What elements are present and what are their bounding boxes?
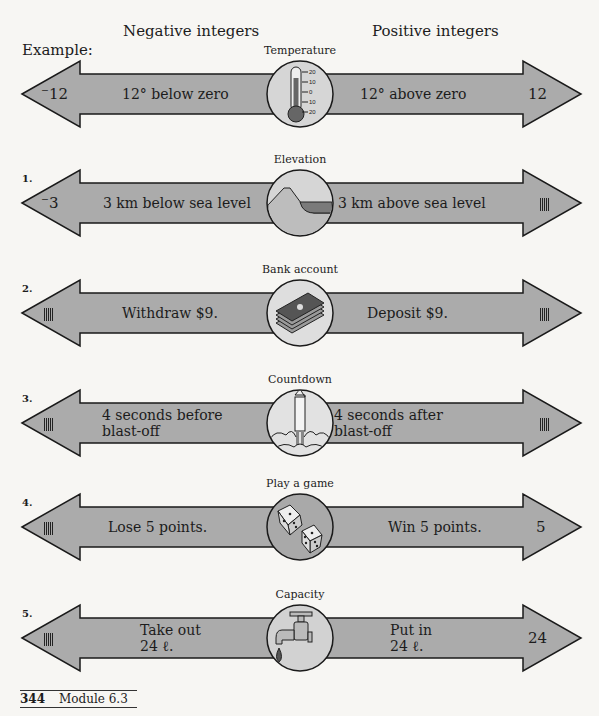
mountain-sea-icon <box>267 170 333 237</box>
right-value: 5 <box>536 518 546 536</box>
tally-icon <box>540 308 550 321</box>
text-line: Withdraw $9. <box>122 305 218 321</box>
row-caption: Play a game <box>230 477 370 490</box>
text-line: 24 ℓ. <box>390 638 432 654</box>
double-arrow <box>0 383 599 463</box>
left-value: ⁻12 <box>41 85 68 103</box>
text-line: 12° below zero <box>122 86 229 102</box>
faucet-icon <box>267 605 333 671</box>
negative-description: Take out24 ℓ. <box>140 622 201 654</box>
double-arrow <box>0 487 599 567</box>
left-value: ⁻3 <box>41 194 58 212</box>
tally-icon <box>44 418 54 431</box>
money-stack-icon <box>267 280 333 346</box>
text-line: Take out <box>140 622 201 638</box>
row-caption: Capacity <box>230 588 370 601</box>
text-line: 12° above zero <box>360 86 466 102</box>
positive-description: 12° above zero <box>360 86 466 102</box>
text-line: Lose 5 points. <box>108 519 207 535</box>
module-label: Module 6.3 <box>59 692 128 706</box>
text-line: 4 seconds after <box>334 407 443 423</box>
tally-icon <box>44 308 54 321</box>
text-line: Deposit $9. <box>367 305 448 321</box>
text-line: Win 5 points. <box>388 519 482 535</box>
answer-blank-left[interactable] <box>44 520 54 539</box>
exercise-number: 3. <box>22 393 32 404</box>
answer-blank-left[interactable] <box>44 416 54 435</box>
answer-blank-right[interactable] <box>540 196 550 215</box>
exercise-number: 4. <box>22 497 32 508</box>
text-line: blast-off <box>334 423 443 439</box>
svg-text:20: 20 <box>309 109 316 115</box>
thermometer-icon: 201001020 <box>267 61 333 127</box>
dice-icon <box>267 494 333 560</box>
positive-description: 3 km above sea level <box>338 195 486 211</box>
tally-icon <box>44 522 54 535</box>
rocket-icon <box>267 389 333 456</box>
positive-description: Put in24 ℓ. <box>390 622 432 654</box>
exercise-number: 2. <box>22 283 32 294</box>
row-caption: Elevation <box>230 153 370 166</box>
double-arrow <box>0 598 599 678</box>
double-arrow: 201001020 <box>0 54 599 134</box>
svg-text:20: 20 <box>309 69 316 75</box>
svg-text:10: 10 <box>309 99 316 105</box>
right-value: 12 <box>528 85 547 103</box>
positive-description: Win 5 points. <box>388 519 482 535</box>
tally-icon <box>44 633 54 646</box>
text-line: 3 km below sea level <box>103 195 251 211</box>
negative-description: Lose 5 points. <box>108 519 207 535</box>
negative-description: 4 seconds beforeblast-off <box>102 407 223 439</box>
answer-blank-left[interactable] <box>44 631 54 650</box>
negative-integers-heading: Negative integers <box>123 22 259 40</box>
page-footer: 344Module 6.3 <box>20 690 137 708</box>
tally-icon <box>540 198 550 211</box>
svg-text:10: 10 <box>309 79 316 85</box>
text-line: 4 seconds before <box>102 407 223 423</box>
positive-integers-heading: Positive integers <box>372 22 499 40</box>
text-line: Put in <box>390 622 432 638</box>
answer-blank-left[interactable] <box>44 306 54 325</box>
text-line: blast-off <box>102 423 223 439</box>
row-caption: Temperature <box>230 44 370 57</box>
row-caption: Countdown <box>230 373 370 386</box>
exercise-number: 1. <box>22 173 32 184</box>
answer-blank-right[interactable] <box>540 416 550 435</box>
text-line: 3 km above sea level <box>338 195 486 211</box>
negative-description: Withdraw $9. <box>122 305 218 321</box>
negative-description: 12° below zero <box>122 86 229 102</box>
row-caption: Bank account <box>230 263 370 276</box>
double-arrow <box>0 163 599 243</box>
negative-description: 3 km below sea level <box>103 195 251 211</box>
answer-blank-right[interactable] <box>540 306 550 325</box>
double-arrow <box>0 273 599 353</box>
positive-description: 4 seconds afterblast-off <box>334 407 443 439</box>
positive-description: Deposit $9. <box>367 305 448 321</box>
page-number: 344 <box>20 692 45 706</box>
right-value: 24 <box>528 629 547 647</box>
tally-icon <box>540 418 550 431</box>
text-line: 24 ℓ. <box>140 638 201 654</box>
exercise-number: 5. <box>22 608 32 619</box>
